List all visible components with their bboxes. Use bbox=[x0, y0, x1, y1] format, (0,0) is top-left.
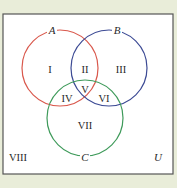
region-iv-label: IV bbox=[61, 93, 72, 104]
set-a-label: A bbox=[48, 24, 56, 36]
venn-diagram: A B C U I II III IV V VI VII VIII bbox=[0, 0, 177, 188]
venn-diagram-figure: A B C U I II III IV V VI VII VIII bbox=[0, 0, 177, 188]
region-v-label: V bbox=[81, 84, 89, 95]
region-ii-label: II bbox=[82, 64, 89, 75]
set-c-label: C bbox=[81, 151, 89, 163]
region-i-label: I bbox=[48, 64, 52, 75]
region-vii-label: VII bbox=[78, 120, 93, 131]
region-vi-label: VI bbox=[98, 93, 110, 104]
universe-label: U bbox=[154, 151, 163, 163]
set-b-label: B bbox=[114, 24, 121, 36]
region-iii-label: III bbox=[116, 64, 127, 75]
region-viii-label: VIII bbox=[9, 152, 28, 163]
